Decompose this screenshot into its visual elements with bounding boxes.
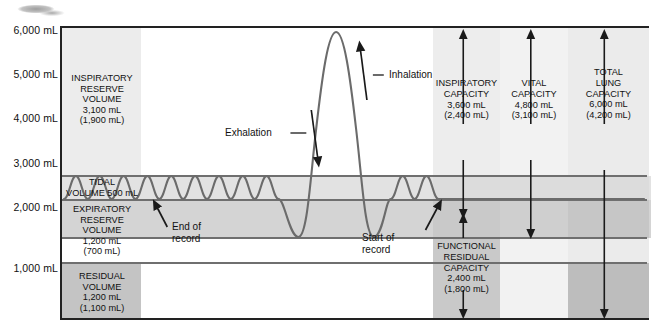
rv-female-value: (1,100 mL)	[66, 303, 138, 314]
annotation-end-of-record: End of record	[172, 221, 201, 244]
end-of-record-line1: End of	[172, 221, 201, 233]
spirogram-waveform	[64, 32, 644, 237]
erv-line3: VOLUME	[66, 225, 138, 236]
tlc-line2: LUNG	[568, 78, 649, 89]
end-of-record-arrow	[155, 204, 167, 227]
irv-line1: INSPIRATORY	[66, 73, 138, 84]
y-tick-2000: 2,000 mL	[2, 201, 58, 213]
tlc-female-value: (4,200 mL)	[568, 110, 649, 121]
annotation-exhalation: Exhalation	[225, 127, 272, 139]
irv-female-value: (1,900 mL)	[66, 115, 138, 126]
ic-female-value: (2,400 mL)	[433, 110, 500, 121]
label-inspiratory-capacity: INSPIRATORY CAPACITY 3,600 mL (2,400 mL)	[433, 78, 500, 121]
annotation-start-of-record: Start of record	[362, 232, 394, 255]
label-expiratory-reserve-volume: EXPIRATORY RESERVE VOLUME 1,200 mL (700 …	[66, 204, 138, 257]
rv-line2: VOLUME	[66, 282, 138, 293]
start-of-record-line1: Start of	[362, 232, 394, 244]
ic-line2: CAPACITY	[433, 89, 500, 100]
y-tick-3000: 3,000 mL	[2, 157, 58, 169]
frc-line2: RESIDUAL	[430, 252, 503, 263]
label-inspiratory-reserve-volume: INSPIRATORY RESERVE VOLUME 3,100 mL (1,9…	[66, 73, 138, 126]
vc-female-value: (3,100 mL)	[500, 110, 568, 121]
erv-line1: EXPIRATORY	[66, 204, 138, 215]
start-of-record-arrow	[426, 204, 440, 230]
label-total-lung-capacity: TOTAL LUNG CAPACITY 6,000 mL (4,200 mL)	[568, 67, 649, 121]
tidal-line2: VOLUME 500 mL	[62, 188, 142, 199]
frc-line3: CAPACITY	[430, 263, 503, 274]
irv-line2: RESERVE	[66, 84, 138, 95]
erv-line2: RESERVE	[66, 215, 138, 226]
irv-male-value: 3,100 mL	[66, 105, 138, 116]
vc-line1: VITAL	[500, 78, 568, 89]
annotation-inhalation: Inhalation	[389, 69, 432, 81]
y-tick-5000: 5,000 mL	[2, 68, 58, 80]
spirogram-figure: 6,000 mL 5,000 mL 4,000 mL 3,000 mL 2,00…	[0, 0, 653, 331]
erv-female-value: (700 mL)	[66, 246, 138, 257]
spirogram-trace-layer	[62, 28, 647, 318]
y-tick-1000: 1,000 mL	[2, 262, 58, 274]
ic-male-value: 3,600 mL	[433, 100, 500, 111]
irv-line3: VOLUME	[66, 94, 138, 105]
label-functional-residual-capacity: FUNCTIONAL RESIDUAL CAPACITY 2,400 mL (1…	[430, 241, 503, 295]
tidal-line1: TIDAL	[62, 177, 142, 188]
y-tick-6000: 6,000 mL	[2, 24, 58, 36]
start-of-record-line2: record	[362, 244, 394, 256]
erv-male-value: 1,200 mL	[66, 236, 138, 247]
tlc-line1: TOTAL	[568, 67, 649, 78]
vc-line2: CAPACITY	[500, 89, 568, 100]
end-of-record-line2: record	[172, 233, 201, 245]
y-axis: 6,000 mL 5,000 mL 4,000 mL 3,000 mL 2,00…	[0, 0, 58, 331]
rv-line1: RESIDUAL	[66, 271, 138, 282]
y-tick-4000: 4,000 mL	[2, 112, 58, 124]
plot-area: INSPIRATORY RESERVE VOLUME 3,100 mL (1,9…	[60, 26, 649, 320]
inhalation-arrow	[360, 46, 367, 100]
vc-male-value: 4,800 mL	[500, 100, 568, 111]
label-residual-volume: RESIDUAL VOLUME 1,200 mL (1,100 mL)	[66, 271, 138, 313]
frc-female-value: (1,800 mL)	[430, 284, 503, 295]
rv-male-value: 1,200 mL	[66, 292, 138, 303]
label-tidal-volume: TIDAL VOLUME 500 mL	[62, 177, 142, 198]
tlc-line3: CAPACITY	[568, 89, 649, 100]
tlc-male-value: 6,000 mL	[568, 99, 649, 110]
ic-line1: INSPIRATORY	[433, 78, 500, 89]
frc-line1: FUNCTIONAL	[430, 241, 503, 252]
label-vital-capacity: VITAL CAPACITY 4,800 mL (3,100 mL)	[500, 78, 568, 121]
frc-male-value: 2,400 mL	[430, 273, 503, 284]
